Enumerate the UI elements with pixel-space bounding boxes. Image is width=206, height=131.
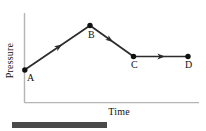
segment-a-to-b — [25, 26, 91, 71]
bottom-bar — [12, 122, 107, 128]
data-point-label-d: D — [185, 60, 192, 70]
data-point-b — [87, 23, 92, 28]
data-point-label-a: A — [27, 73, 34, 83]
y-axis-label: Pressure — [4, 39, 15, 83]
data-point-label-b: B — [88, 30, 95, 40]
x-axis-label: Time — [98, 106, 140, 117]
data-point-label-c: C — [131, 60, 138, 70]
pressure-time-chart: A B C D Pressure Time — [0, 0, 206, 131]
